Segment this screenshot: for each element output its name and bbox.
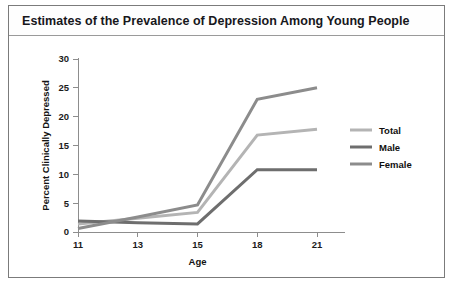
series-line-female [78, 88, 317, 229]
y-tick-label: 10 [58, 169, 69, 180]
plot-area: 0510152025301113151821AgePercent Clinica… [0, 36, 453, 283]
x-axis-title: Age [189, 256, 207, 267]
legend-label-female: Female [379, 159, 412, 170]
line-chart: 0510152025301113151821AgePercent Clinica… [0, 36, 453, 283]
x-tick-label: 11 [73, 239, 84, 250]
legend: TotalMaleFemale [350, 125, 412, 170]
y-tick-label: 0 [64, 226, 69, 237]
legend-label-total: Total [379, 125, 401, 136]
x-tick-label: 21 [312, 239, 323, 250]
y-axis-title: Percent Clinically Depressed [40, 80, 51, 211]
y-axis-title-group: Percent Clinically Depressed [40, 80, 51, 211]
y-tick-label: 5 [64, 198, 70, 209]
x-tick-label: 13 [132, 239, 143, 250]
y-tick-label: 25 [58, 82, 69, 93]
figure-container: Estimates of the Prevalence of Depressio… [0, 0, 453, 283]
series-line-total [78, 129, 317, 224]
title-bar: Estimates of the Prevalence of Depressio… [9, 6, 444, 36]
y-tick-label: 30 [58, 53, 69, 64]
series-line-male [78, 170, 317, 224]
legend-label-male: Male [379, 142, 400, 153]
x-tick-label: 15 [192, 239, 203, 250]
y-tick-label: 15 [58, 140, 69, 151]
chart-title: Estimates of the Prevalence of Depressio… [9, 14, 410, 28]
y-tick-label: 20 [58, 111, 69, 122]
x-tick-label: 18 [252, 239, 263, 250]
